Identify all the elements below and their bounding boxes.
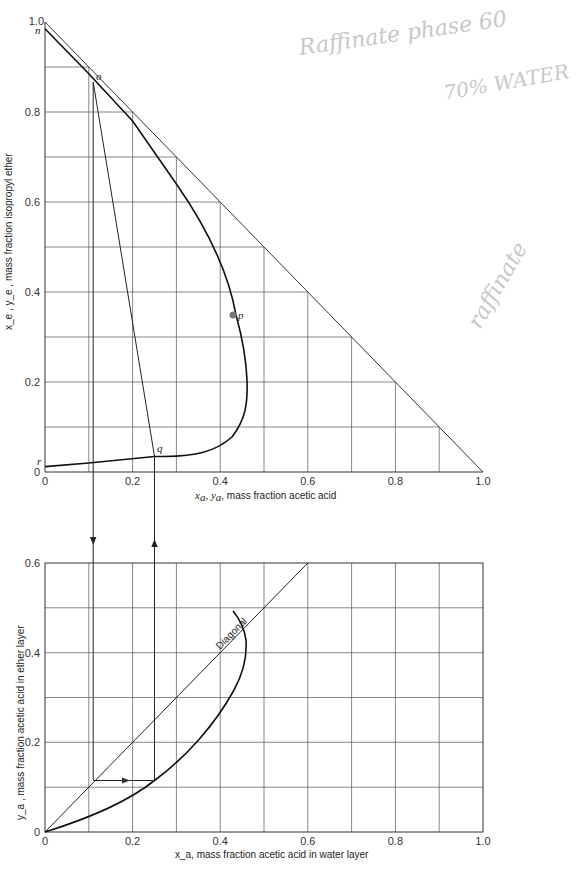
bottom-x-axis-label: x_a, mass fraction acetic acid in water … xyxy=(175,849,369,860)
svg-text:0.2: 0.2 xyxy=(25,736,40,748)
svg-text:0.8: 0.8 xyxy=(388,475,403,487)
point-p-marker xyxy=(230,312,237,319)
top-x-axis-label: xa, ya, mass fraction acetic acid xyxy=(194,489,336,503)
svg-text:0.4: 0.4 xyxy=(25,286,40,298)
svg-text:0: 0 xyxy=(34,466,40,478)
solubility-curve xyxy=(45,29,247,467)
svg-text:0.6: 0.6 xyxy=(300,475,315,487)
point-o-label: o xyxy=(96,70,102,82)
svg-text:1.0: 1.0 xyxy=(475,475,490,487)
handwritten-notes: Raffinate phase 60 70% WATER raffinate xyxy=(296,6,570,332)
top-x-ticks: 0 0.2 0.4 0.6 0.8 1.0 xyxy=(42,475,491,487)
svg-text:0.4: 0.4 xyxy=(25,647,40,659)
top-grid xyxy=(45,67,439,472)
svg-text:0.2: 0.2 xyxy=(125,475,140,487)
top-y-ticks: 0 0.2 0.4 0.6 0.8 1.0 xyxy=(25,15,44,478)
svg-text:0.8: 0.8 xyxy=(25,106,40,118)
svg-text:0.6: 0.6 xyxy=(300,835,315,847)
bottom-y-axis-label: y_a , mass fraction acetic acid in ether… xyxy=(15,625,26,820)
top-y-axis-label: x_e , y_e , mass fraction isopropyl ethe… xyxy=(3,153,14,330)
svg-text:raffinate: raffinate xyxy=(463,237,532,332)
svg-text:0.4: 0.4 xyxy=(213,475,228,487)
svg-text:0: 0 xyxy=(42,475,48,487)
svg-text:70% WATER: 70% WATER xyxy=(442,59,571,105)
connector-lines xyxy=(90,457,158,782)
svg-text:1.0: 1.0 xyxy=(475,835,490,847)
ternary-diagram: n o p q r 0 0.2 0.4 0.6 0.8 1.0 0 0.2 0.… xyxy=(3,15,491,503)
point-p-label: p xyxy=(237,309,244,321)
svg-text:0.8: 0.8 xyxy=(388,835,403,847)
diagonal-label: Diagonal xyxy=(214,615,249,651)
arrow-up-icon xyxy=(151,539,157,547)
svg-text:0: 0 xyxy=(42,835,48,847)
svg-text:0.2: 0.2 xyxy=(25,376,40,388)
svg-text:0: 0 xyxy=(34,826,40,838)
distribution-diagram: Diagonal 0 0.2 0.4 0.6 0 0.2 0.4 0.6 0.8… xyxy=(15,557,491,860)
svg-text:Raffinate phase 60: Raffinate phase 60 xyxy=(296,6,508,60)
bottom-y-ticks: 0 0.2 0.4 0.6 xyxy=(25,557,40,838)
svg-text:0.6: 0.6 xyxy=(25,196,40,208)
svg-text:0.2: 0.2 xyxy=(125,835,140,847)
arrow-down-icon xyxy=(90,537,96,545)
arrow-right-icon xyxy=(122,778,130,784)
chart-canvas: Raffinate phase 60 70% WATER raffinate xyxy=(0,0,583,872)
point-q-label: q xyxy=(157,442,163,454)
svg-text:0.6: 0.6 xyxy=(25,557,40,569)
bottom-grid xyxy=(45,563,483,832)
bottom-x-ticks: 0 0.2 0.4 0.6 0.8 1.0 xyxy=(42,835,491,847)
svg-text:0.4: 0.4 xyxy=(213,835,228,847)
svg-text:1.0: 1.0 xyxy=(29,15,44,27)
